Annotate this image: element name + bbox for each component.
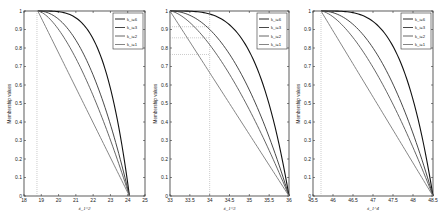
y-tick-label: 0.2 (304, 156, 311, 162)
x-tick-label: 25 (142, 197, 148, 203)
y-tick-label: 0.6 (15, 82, 22, 88)
y-tick-label: 0.3 (161, 137, 168, 143)
y-tick-label: 0.9 (15, 26, 22, 32)
legend-label: k_i=3 (271, 25, 282, 30)
x-tick-label: 48 (410, 197, 416, 203)
membership-charts: 00.10.20.30.40.50.60.70.80.9118192021222… (0, 0, 440, 220)
x-tick-label: 22 (90, 197, 96, 203)
x-tick-label: 46.5 (348, 197, 358, 203)
x-tick-label: 24 (125, 197, 131, 203)
y-tick-label: 0.4 (15, 119, 22, 125)
y-tick-label: 1 (308, 8, 311, 14)
chart-panel-1: 00.10.20.30.40.50.60.70.80.9118192021222… (7, 8, 148, 211)
y-tick-label: 0.3 (304, 137, 311, 143)
x-tick-label: 47 (370, 197, 376, 203)
legend-label: k_i=6 (415, 17, 426, 22)
legend-label: k_i=2 (415, 34, 426, 39)
y-tick-label: 0.9 (161, 26, 168, 32)
x-tick-label: 23 (108, 197, 114, 203)
x-tick-label: 34.5 (225, 197, 235, 203)
y-tick-label: 0.7 (161, 63, 168, 69)
legend-label: k_i=6 (271, 17, 282, 22)
x-tick-label: 36 (286, 197, 292, 203)
legend-label: k_i=3 (415, 25, 426, 30)
legend-label: k_i=2 (127, 34, 138, 39)
x-tick-label: 33 (167, 197, 173, 203)
x-tick-label: 18 (21, 197, 27, 203)
y-tick-label: 0.7 (304, 63, 311, 69)
y-tick-label: 0.1 (304, 174, 311, 180)
y-tick-label: 0.4 (304, 119, 311, 125)
y-tick-label: 0.2 (15, 156, 22, 162)
y-tick-label: 0.1 (161, 174, 168, 180)
y-tick-label: 0.6 (304, 82, 311, 88)
legend-label: k_i=1 (271, 42, 282, 47)
y-tick-label: 0.6 (161, 82, 168, 88)
legend-label: k_i=2 (271, 34, 282, 39)
y-tick-label: 0.4 (161, 119, 168, 125)
legend-label: k_i=1 (415, 42, 426, 47)
x-axis-label: x̃_1^4 (366, 206, 379, 211)
x-axis-label: x̃_1^3 (223, 206, 236, 211)
x-tick-label: 21 (73, 197, 79, 203)
y-tick-label: 0.8 (304, 45, 311, 51)
legend: k_i=6k_i=3k_i=2k_i=1 (113, 13, 143, 49)
x-tick-label: 48.5 (428, 197, 438, 203)
y-tick-label: 0.5 (161, 100, 168, 106)
y-axis-label: Membership values (153, 83, 158, 124)
legend-label: k_i=6 (127, 17, 138, 22)
legend-label: k_i=1 (127, 42, 138, 47)
legend: k_i=6k_i=3k_i=2k_i=1 (401, 13, 431, 49)
y-tick-label: 0.8 (15, 45, 22, 51)
x-tick-label: 35.5 (264, 197, 274, 203)
y-tick-label: 1 (19, 8, 22, 14)
x-tick-label: 33.5 (185, 197, 195, 203)
legend-label: k_i=3 (127, 25, 138, 30)
y-axis-label: Membership values (7, 83, 12, 124)
x-tick-label: 47.5 (388, 197, 398, 203)
chart-panel-3: 00.10.20.30.40.50.60.70.80.9145.54646.54… (296, 8, 438, 211)
y-tick-label: 0.2 (161, 156, 168, 162)
y-tick-label: 0.1 (15, 174, 22, 180)
y-tick-label: 0.9 (304, 26, 311, 32)
y-tick-label: 0.5 (304, 100, 311, 106)
x-tick-label: 34 (207, 197, 213, 203)
y-axis-label: Membership values (296, 83, 301, 124)
y-tick-label: 1 (165, 8, 168, 14)
x-tick-label: 35 (247, 197, 253, 203)
x-tick-label: 19 (39, 197, 45, 203)
y-tick-label: 0.8 (161, 45, 168, 51)
y-tick-label: 0.5 (15, 100, 22, 106)
y-tick-label: 0.7 (15, 63, 22, 69)
x-axis-label: x̃_1^2 (78, 206, 91, 211)
x-tick-label: 45.5 (308, 197, 318, 203)
x-tick-label: 46 (330, 197, 336, 203)
legend: k_i=6k_i=3k_i=2k_i=1 (257, 13, 287, 49)
y-tick-label: 0.3 (15, 137, 22, 143)
chart-panel-2: 00.10.20.30.40.50.60.70.80.913333.53434.… (153, 8, 292, 211)
x-tick-label: 20 (56, 197, 62, 203)
